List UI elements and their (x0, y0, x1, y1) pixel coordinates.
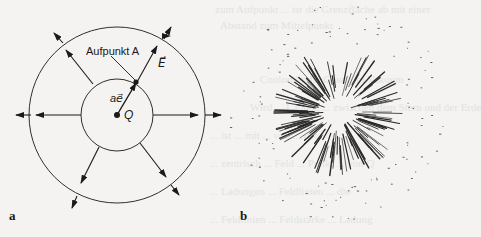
field-arrows (36, 36, 198, 183)
label-ae-vector: ae⃗ (110, 92, 123, 105)
label-aufpunkt-a: Aufpunkt A (86, 45, 139, 57)
charge-q-dot (114, 112, 120, 118)
panel-letter-b: b (240, 208, 247, 224)
panel-b-field-pattern (274, 56, 402, 176)
label-charge-q: Q (124, 108, 133, 122)
point-a (133, 79, 138, 84)
panel-letter-a: a (9, 208, 16, 224)
panel-b-scatter-dots (230, 7, 444, 220)
label-e-field: E⃗ (158, 56, 166, 70)
